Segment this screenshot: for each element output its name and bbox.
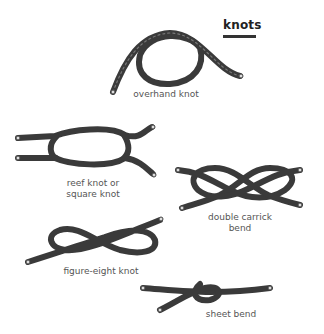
overhand-knot-illustration — [111, 33, 243, 94]
label-reef-knot: reef knot or square knot — [58, 178, 128, 200]
label-line: square knot — [58, 189, 128, 200]
label-line: reef knot or — [58, 178, 128, 189]
figure-eight-knot-illustration — [26, 217, 163, 264]
reef-knot-illustration — [16, 125, 156, 177]
double-carrick-bend-illustration — [176, 168, 302, 210]
label-overhand-knot: overhand knot — [128, 89, 204, 100]
knot-illustrations — [0, 0, 324, 334]
label-line: overhand knot — [128, 89, 204, 100]
label-sheet-bend: sheet bend — [198, 309, 264, 320]
label-figure-eight-knot: figure-eight knot — [56, 266, 146, 277]
label-line: sheet bend — [198, 309, 264, 320]
label-line: double carrick — [200, 212, 280, 223]
label-line: figure-eight knot — [56, 266, 146, 277]
label-line: bend — [200, 223, 280, 234]
label-double-carrick-bend: double carrick bend — [200, 212, 280, 234]
sheet-bend-illustration — [141, 284, 272, 312]
